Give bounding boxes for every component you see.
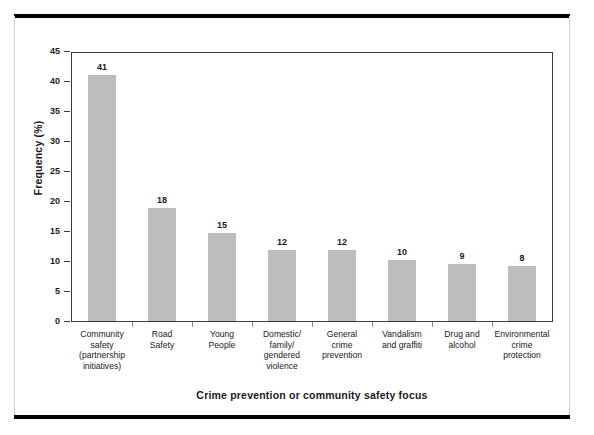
bar-value-label: 9 [459,251,464,261]
bar-group: 12 [312,53,372,321]
x-axis-category-line: family/ [252,340,312,351]
x-axis-category-label: Communitysafety(partnershipinitiatives) [72,329,132,371]
x-axis-tick-mark [432,322,433,327]
x-axis-tick-mark [252,322,253,327]
bar-value-label: 18 [157,195,167,205]
bar[interactable] [448,264,476,321]
bar-value-label: 15 [217,220,227,230]
bar[interactable] [508,266,536,321]
bar[interactable] [328,250,356,321]
x-axis-category-label: Vandalismand graffiti [372,329,432,350]
bar-group: 41 [72,53,132,321]
bar-group: 8 [492,53,552,321]
x-axis-category-line: People [192,340,252,351]
y-axis-tick-mark [64,261,70,262]
y-axis-tick-mark [64,321,70,322]
x-axis-category-line: Domestic/ [252,329,312,340]
bar-value-label: 10 [397,247,407,257]
x-axis-tick-mark [492,322,493,327]
x-axis-category-label: RoadSafety [132,329,192,350]
x-axis-category-line: Road [132,329,192,340]
x-axis-category-line: crime [312,340,372,351]
x-axis-category-line: safety [72,340,132,351]
y-axis-tick-label: 25 [34,166,60,176]
x-axis-category-line: and graffiti [372,340,432,351]
x-axis-category-line: protection [492,350,552,361]
y-axis-tick-mark [64,141,70,142]
bar[interactable] [148,208,176,321]
x-axis-category-line: alcohol [432,340,492,351]
bar[interactable] [208,233,236,321]
y-axis-tick-mark [64,291,70,292]
bar-value-label: 8 [519,253,524,263]
y-axis-tick-label: 10 [34,256,60,266]
x-axis-category-line: Community [72,329,132,340]
y-axis-tick-mark [64,231,70,232]
x-axis-category-line: gendered [252,350,312,361]
y-axis-tick-label: 45 [34,46,60,56]
bar-group: 12 [252,53,312,321]
x-axis-category-line: Vandalism [372,329,432,340]
y-axis-tick-mark [64,81,70,82]
bar-group: 18 [132,53,192,321]
bars-layer: 41181512121098 [72,53,552,321]
x-axis-category-label: Domestic/family/genderedviolence [252,329,312,371]
y-axis-tick-label: 30 [34,136,60,146]
x-axis-category-line: Environmental [492,329,552,340]
x-axis-tick-mark [372,322,373,327]
bar-chart: Frequency (%) 051015202530354045 4118151… [0,0,594,435]
x-axis-category-line: Safety [132,340,192,351]
bar-value-label: 41 [97,62,107,72]
bar-value-label: 12 [337,237,347,247]
y-axis-tick-label: 35 [34,106,60,116]
y-axis-tick-label: 5 [34,286,60,296]
x-axis-category-label: Generalcrimeprevention [312,329,372,361]
x-axis-tick-mark [132,322,133,327]
x-axis-category-line: prevention [312,350,372,361]
bar-group: 9 [432,53,492,321]
bar[interactable] [388,260,416,321]
x-axis-title: Crime prevention or community safety foc… [71,389,553,401]
x-axis-category-label: YoungPeople [192,329,252,350]
bar-value-label: 12 [277,237,287,247]
y-axis-tick-label: 0 [34,316,60,326]
y-axis-tick-label: 40 [34,76,60,86]
bar-group: 15 [192,53,252,321]
x-axis-category-line: crime [492,340,552,351]
y-axis-tick-label: 15 [34,226,60,236]
x-axis-tick-mark [192,322,193,327]
bar-group: 10 [372,53,432,321]
x-axis-category-line: General [312,329,372,340]
x-axis-category-line: (partnership [72,350,132,361]
y-axis-tick-mark [64,111,70,112]
y-axis-tick-label: 20 [34,196,60,206]
y-axis-tick-mark [64,171,70,172]
bar[interactable] [268,250,296,321]
x-axis-category-label: Environmentalcrimeprotection [492,329,552,361]
x-axis-category-line: initiatives) [72,361,132,372]
x-axis-category-line: Drug and [432,329,492,340]
y-axis-tick-mark [64,51,70,52]
x-axis-category-line: Young [192,329,252,340]
x-axis-category-label: Drug andalcohol [432,329,492,350]
y-axis-tick-mark [64,201,70,202]
bar[interactable] [88,75,116,321]
x-axis-tick-mark [312,322,313,327]
x-axis-category-line: violence [252,361,312,372]
